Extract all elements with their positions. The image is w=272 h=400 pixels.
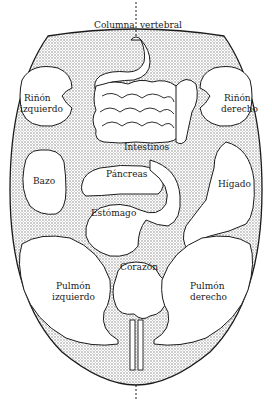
label-lung-left-1: Pulmón [56, 281, 90, 292]
label-stomach: Estómago [91, 208, 136, 219]
intestines-shape [93, 80, 181, 143]
label-intestines: Intestinos [124, 142, 169, 153]
label-heart: Corazón [120, 262, 158, 273]
tongue-diagram: Columna vertebral Riñón izquierdo Riñón … [0, 0, 272, 400]
label-kidney-left-1: Riñón [24, 93, 51, 104]
label-spine-left: Columna [94, 20, 135, 31]
label-kidney-right-1: Riñón [224, 93, 251, 104]
label-pancreas: Páncreas [106, 169, 147, 180]
lower-channel-left [130, 320, 135, 370]
label-spine-right: vertebral [140, 20, 182, 31]
label-liver: Hígado [218, 179, 251, 190]
label-spleen: Bazo [33, 176, 55, 187]
tongue-illustration [0, 0, 272, 400]
label-lung-right-1: Pulmón [190, 281, 224, 292]
lower-channel-right [138, 320, 143, 370]
label-lung-right-2: derecho [190, 292, 227, 303]
label-lung-left-2: izquierdo [52, 292, 95, 303]
label-kidney-right-2: derecho [221, 104, 258, 115]
label-kidney-left-2: izquierdo [20, 104, 63, 115]
